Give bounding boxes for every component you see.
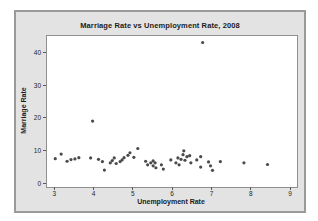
data-point [179,158,182,161]
y-tick-mark [43,150,46,151]
data-point [199,155,202,158]
data-point [154,161,157,164]
x-tick-label: 7 [204,190,218,197]
x-axis-label: Unemployment Rate [46,198,296,205]
data-point [89,156,92,159]
data-point [199,166,202,169]
data-point [266,163,269,166]
y-tick-label: 0 [25,180,41,187]
y-tick-mark [43,52,46,53]
data-point [115,162,118,165]
data-point [182,149,185,152]
plot-area [46,35,298,188]
y-tick-label: 40 [25,49,41,56]
data-point [169,158,172,161]
data-point [152,164,155,167]
data-point [207,160,210,163]
data-point [189,161,192,164]
data-point [65,160,68,163]
y-tick-label: 20 [25,114,41,121]
y-tick-label: 30 [25,82,41,89]
data-point [209,164,212,167]
data-point [188,154,191,157]
data-point [113,156,116,159]
x-tick-label: 3 [47,190,61,197]
data-point [122,156,125,159]
data-point [69,158,72,161]
data-point [176,156,179,159]
data-point [146,163,149,166]
data-point [195,158,198,161]
data-point [219,160,222,163]
x-tick-label: 6 [165,190,179,197]
x-tick-label: 5 [126,190,140,197]
y-tick-mark [43,85,46,86]
data-point [136,147,139,150]
data-point [54,157,57,160]
data-point [101,160,104,163]
data-point [185,155,188,158]
data-point [111,159,114,162]
data-point [160,163,163,166]
data-point [132,156,135,159]
y-tick-mark [43,183,46,184]
data-point [174,161,177,164]
data-point [181,153,184,156]
scatter-points-layer [47,36,297,187]
data-point [60,152,63,155]
data-point [183,159,186,162]
data-point [128,151,131,154]
data-point [242,161,245,164]
data-point [201,41,204,44]
data-point [154,166,157,169]
data-point [77,156,80,159]
y-tick-label: 10 [25,147,41,154]
x-tick-label: 9 [283,190,297,197]
data-point [91,120,94,123]
data-point [73,157,76,160]
y-tick-mark [43,117,46,118]
data-point [103,168,106,171]
x-tick-label: 4 [87,190,101,197]
data-point [144,160,147,163]
data-point [162,167,165,170]
data-point [211,169,214,172]
x-tick-label: 8 [244,190,258,197]
chart-title: Marriage Rate vs Unemployment Rate, 2008 [16,21,304,30]
data-point [126,154,129,157]
figure-panel: Marriage Rate vs Unemployment Rate, 2008… [14,10,306,213]
graph-window: Marriage Rate vs Unemployment Rate, 2008… [0,0,318,221]
data-point [97,158,100,161]
data-point [177,163,180,166]
